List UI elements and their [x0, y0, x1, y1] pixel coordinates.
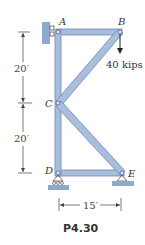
joint-label-e: E: [127, 168, 136, 179]
member-ce: [56, 101, 125, 175]
load-label: 40 kips: [106, 59, 143, 70]
joint-label-a: A: [58, 16, 66, 27]
joint-label-b: B: [117, 16, 125, 27]
figure-caption: P4.30: [63, 222, 99, 235]
joint-label-d: D: [44, 165, 53, 176]
truss-diagram: 40 kips A B C D E 20′ 20′ 15′ P4.30: [0, 0, 145, 245]
roller-support-d: [48, 175, 69, 190]
joint-pins: [56, 30, 124, 175]
member-ab: [56, 29, 122, 35]
dim-lower-vertical: 20′: [14, 133, 30, 144]
joint-label-c: C: [45, 98, 53, 109]
member-de: [56, 170, 124, 176]
vertical-dimension: [18, 32, 32, 173]
truss-members: [55, 29, 125, 176]
dim-upper-vertical: 20′: [14, 63, 30, 74]
wall-support-a: [42, 22, 54, 44]
dim-horizontal: 15′: [83, 200, 99, 211]
